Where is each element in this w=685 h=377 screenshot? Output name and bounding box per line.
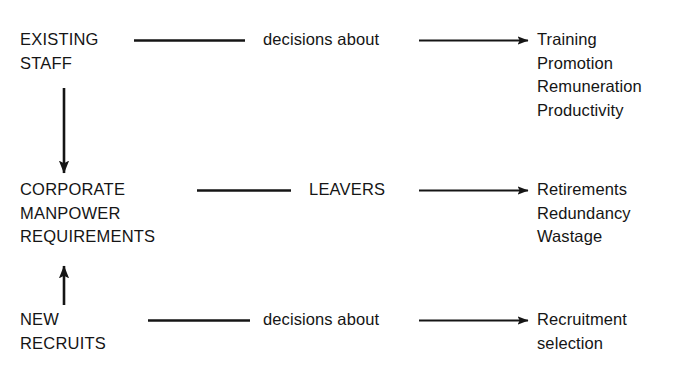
node-existing-staff: EXISTING STAFF — [20, 28, 99, 75]
connector-label-leavers: LEAVERS — [309, 178, 385, 202]
node-corporate-manpower-requirements: CORPORATE MANPOWER REQUIREMENTS — [20, 178, 155, 249]
manpower-flow-diagram: EXISTING STAFF decisions about Training … — [0, 0, 685, 377]
node-new-recruits: NEW RECRUITS — [20, 308, 106, 355]
outcomes-existing-staff: Training Promotion Remuneration Producti… — [537, 28, 642, 122]
connector-label-decisions-about-training: decisions about — [263, 28, 379, 52]
outcomes-new-recruits: Recruitment selection — [537, 308, 627, 355]
connector-label-decisions-about-recruitment: decisions about — [263, 308, 379, 332]
outcomes-leavers: Retirements Redundancy Wastage — [537, 178, 631, 249]
